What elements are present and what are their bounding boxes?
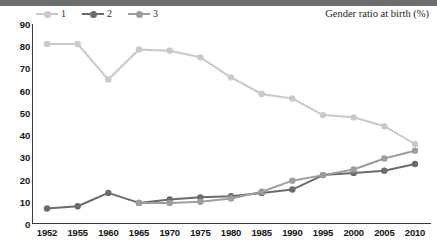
data-point-marker	[197, 54, 203, 60]
legend-dot-icon	[90, 11, 97, 18]
series-plot	[33, 24, 429, 224]
legend-entry[interactable]: 1	[36, 9, 66, 19]
y-axis-tick-label: 10	[2, 196, 30, 207]
legend-entry[interactable]: 2	[82, 9, 112, 19]
data-point-marker	[228, 74, 234, 80]
data-point-marker	[228, 195, 234, 201]
x-axis-tick-label: 1960	[98, 227, 118, 238]
series-line	[139, 151, 415, 203]
y-axis-tick-label: 50	[2, 107, 30, 118]
data-point-marker	[74, 41, 80, 47]
chart-legend: 123	[36, 9, 158, 19]
legend-marker-icon	[128, 10, 150, 19]
data-point-marker	[381, 155, 387, 161]
data-point-marker	[412, 147, 418, 153]
y-axis-tick-label: 0	[2, 219, 30, 230]
plot-wrapper: 9080706050403020100 19521955196019651970…	[0, 24, 437, 250]
data-point-marker	[105, 76, 111, 82]
x-axis-tick-label: 1995	[313, 227, 333, 238]
series-line	[47, 164, 415, 208]
data-point-marker	[289, 186, 295, 192]
y-axis-tick-label: 60	[2, 85, 30, 96]
data-point-marker	[197, 199, 203, 205]
data-point-marker	[74, 203, 80, 209]
legend-dot-icon	[136, 11, 143, 18]
y-axis-tick-label: 90	[2, 19, 30, 30]
y-axis-tick-label: 70	[2, 63, 30, 74]
x-axis-tick-label: 2005	[374, 227, 394, 238]
data-point-marker	[136, 46, 142, 52]
y-axis-tick-label: 80	[2, 41, 30, 52]
chart-figure: 123 Gender ratio at birth (%) 9080706050…	[0, 0, 437, 250]
data-point-marker	[44, 205, 50, 211]
legend-label: 1	[61, 9, 66, 19]
data-point-marker	[289, 177, 295, 183]
series-group	[44, 161, 418, 212]
x-axis-tick-label: 1985	[251, 227, 271, 238]
series-group	[136, 147, 418, 206]
data-point-marker	[166, 47, 172, 53]
legend-dot-icon	[44, 11, 51, 18]
x-axis-tick-label: 2000	[343, 227, 363, 238]
y-axis-tick-labels: 9080706050403020100	[0, 24, 30, 224]
x-axis-tick-label: 1970	[159, 227, 179, 238]
x-axis-tick-labels: 1952195519601965197019751980198519901995…	[33, 227, 429, 247]
y-axis-tick-label: 30	[2, 152, 30, 163]
data-point-marker	[258, 189, 264, 195]
legend-marker-icon	[36, 10, 58, 19]
x-axis-tick-label: 1952	[37, 227, 57, 238]
data-point-marker	[258, 91, 264, 97]
legend-marker-icon	[82, 10, 104, 19]
data-point-marker	[350, 114, 356, 120]
x-axis-tick-label: 1990	[282, 227, 302, 238]
data-point-marker	[320, 172, 326, 178]
y-axis-tick-label: 40	[2, 130, 30, 141]
series-group	[44, 41, 418, 147]
data-point-marker	[105, 190, 111, 196]
legend-entry[interactable]: 3	[128, 9, 158, 19]
legend-label: 2	[107, 9, 112, 19]
series-line	[47, 44, 415, 144]
y-axis-tick-label: 20	[2, 174, 30, 185]
data-point-marker	[166, 200, 172, 206]
data-point-marker	[412, 161, 418, 167]
data-point-marker	[320, 112, 326, 118]
data-point-marker	[350, 166, 356, 172]
x-axis-tick-label: 1965	[129, 227, 149, 238]
data-point-marker	[381, 123, 387, 129]
x-axis-line	[33, 223, 431, 224]
top-decorative-band	[0, 0, 437, 6]
legend-label: 3	[153, 9, 158, 19]
x-axis-tick-label: 2010	[405, 227, 425, 238]
plot-area	[33, 24, 429, 224]
x-axis-tick-label: 1955	[67, 227, 87, 238]
x-axis-tick-label: 1980	[221, 227, 241, 238]
chart-title: Gender ratio at birth (%)	[325, 8, 429, 19]
data-point-marker	[412, 141, 418, 147]
data-point-marker	[289, 95, 295, 101]
x-axis-tick-label: 1975	[190, 227, 210, 238]
data-point-marker	[44, 41, 50, 47]
data-point-marker	[381, 167, 387, 173]
data-point-marker	[136, 200, 142, 206]
